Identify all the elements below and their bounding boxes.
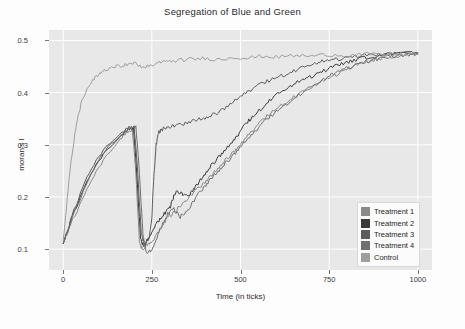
legend-item[interactable]: Treatment 1 [361,206,414,217]
chart-title: Segregation of Blue and Green [0,6,465,17]
y-tick-label: 0.4 [0,88,28,97]
chart-legend: Treatment 1Treatment 2Treatment 3Treatme… [357,202,420,267]
x-tick-mark [63,270,64,274]
y-tick-label: 0.1 [0,245,28,254]
legend-label: Treatment 3 [374,229,414,240]
y-tick-label: 0.2 [0,192,28,201]
legend-label: Treatment 2 [374,218,414,229]
x-tick-mark [241,270,242,274]
legend-color-swatch [361,253,370,262]
x-tick-label: 500 [221,275,261,284]
x-tick-mark [329,270,330,274]
legend-item[interactable]: Control [361,252,414,263]
x-tick-label: 250 [132,275,172,284]
legend-color-swatch [361,241,370,250]
y-axis-label: moran's I [17,110,26,200]
legend-color-swatch [361,207,370,216]
x-tick-mark [418,270,419,274]
x-axis-label: Time (in ticks) [49,292,432,301]
x-tick-mark [152,270,153,274]
legend-item[interactable]: Treatment 4 [361,240,414,251]
legend-label: Treatment 4 [374,240,414,251]
y-tick-label: 0.3 [0,140,28,149]
x-tick-label: 0 [43,275,83,284]
legend-item[interactable]: Treatment 2 [361,217,414,228]
chart-figure: Segregation of Blue and Green moran's I … [0,0,465,329]
legend-item[interactable]: Treatment 3 [361,229,414,240]
legend-color-swatch [361,219,370,228]
x-tick-label: 1000 [398,275,438,284]
legend-label: Treatment 1 [374,206,414,217]
legend-label: Control [374,252,398,263]
legend-color-swatch [361,230,370,239]
y-tick-label: 0.5 [0,36,28,45]
x-tick-label: 750 [309,275,349,284]
